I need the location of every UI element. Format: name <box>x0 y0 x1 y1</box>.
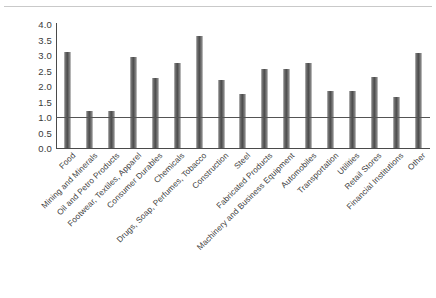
bar[interactable] <box>174 63 181 148</box>
bar-slot <box>57 24 79 148</box>
bar[interactable] <box>283 69 290 148</box>
reference-line <box>56 117 430 118</box>
y-axis-tick-label: 0.0 <box>38 143 52 154</box>
y-axis-tick-label: 2.0 <box>38 81 52 92</box>
top-divider <box>4 6 432 7</box>
bar-slot <box>101 24 123 148</box>
x-axis-line <box>56 148 430 149</box>
bar-slot <box>385 24 407 148</box>
x-axis-category-label: Food <box>57 151 77 171</box>
x-axis-category-label: Other <box>406 151 427 172</box>
bar-slot <box>145 24 167 148</box>
y-axis-tick-label: 0.5 <box>38 127 52 138</box>
bar-slot <box>341 24 363 148</box>
bar-slot <box>123 24 145 148</box>
y-axis-tick-label: 2.5 <box>38 65 52 76</box>
x-axis-category-label: Footwear, Textiles, Apparel <box>66 151 143 228</box>
bar[interactable] <box>371 77 378 148</box>
y-axis-tick-label: 1.0 <box>38 112 52 123</box>
bar[interactable] <box>393 97 400 148</box>
bar-slot <box>79 24 101 148</box>
y-axis-tick-labels: 4.03.53.02.52.01.51.00.50.0 <box>0 0 52 298</box>
x-axis-category-label: Utilities <box>336 151 362 177</box>
bar[interactable] <box>152 78 159 148</box>
x-axis-category-label: Oil and Petro Products <box>55 151 121 217</box>
bar[interactable] <box>239 94 246 148</box>
bar-slot <box>363 24 385 148</box>
x-axis-category-label: Construction <box>191 151 231 191</box>
x-axis-category-label: Automobiles <box>279 151 318 190</box>
bar-slot <box>166 24 188 148</box>
y-axis-tick-label: 1.5 <box>38 96 52 107</box>
x-axis-category-label: Machinery and Business Equipment <box>195 151 296 252</box>
bar-slot <box>407 24 429 148</box>
bar-slot <box>232 24 254 148</box>
bar[interactable] <box>305 63 312 148</box>
bar[interactable] <box>349 91 356 148</box>
x-axis-category-label: Chemicals <box>153 151 187 185</box>
bar-slot <box>298 24 320 148</box>
x-axis-category-label: Retail Stores <box>343 151 383 191</box>
bar-slot <box>210 24 232 148</box>
bar[interactable] <box>130 57 137 148</box>
bar[interactable] <box>327 91 334 148</box>
y-axis-tick-label: 3.0 <box>38 50 52 61</box>
plot-area <box>57 24 429 148</box>
bar[interactable] <box>218 80 225 148</box>
bar[interactable] <box>415 53 422 148</box>
bar[interactable] <box>196 36 203 148</box>
bar-slot <box>188 24 210 148</box>
bar-slot <box>276 24 298 148</box>
x-axis-category-label: Financial Institutions <box>345 151 405 211</box>
x-axis-category-label: Drugs, Soap, Perfumes, Tobacco <box>115 151 208 244</box>
x-axis-category-label: Fabricated Products <box>215 151 275 211</box>
x-axis-category-label: Transportation <box>295 151 339 195</box>
bar-slot <box>254 24 276 148</box>
x-axis-category-label: Consumer Durables <box>106 151 165 210</box>
bar[interactable] <box>261 69 268 148</box>
bar-chart: 4.03.53.02.52.01.51.00.50.0 FoodMining a… <box>0 0 436 298</box>
x-axis-category-label: Steel <box>232 151 252 171</box>
y-axis-tick-label: 3.5 <box>38 34 52 45</box>
bar[interactable] <box>64 52 71 148</box>
y-axis-tick-label: 4.0 <box>38 19 52 30</box>
bar-slot <box>320 24 342 148</box>
